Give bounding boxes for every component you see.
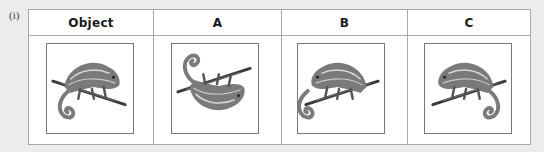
header-object: Object [29, 10, 154, 36]
chameleon-icon [425, 44, 511, 133]
header-b: B [282, 10, 408, 36]
object-image [46, 43, 134, 134]
cell-a [154, 36, 282, 144]
header-c: C [408, 10, 530, 36]
header-a: A [154, 10, 282, 36]
chameleon-icon [298, 44, 384, 133]
cell-object [29, 36, 154, 144]
option-a-image [171, 43, 259, 134]
question-number-label: (i) [9, 9, 19, 21]
chameleon-icon [172, 44, 258, 133]
chameleon-icon [47, 44, 133, 133]
option-c-image [424, 43, 512, 134]
cell-c [408, 36, 530, 144]
transformation-table: Object A B C [28, 9, 531, 145]
option-b-image [297, 43, 385, 134]
cell-b [282, 36, 408, 144]
